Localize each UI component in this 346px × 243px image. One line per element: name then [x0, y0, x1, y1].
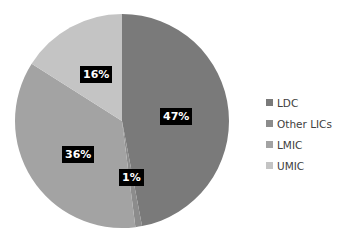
data-label-ldc: 47%: [160, 108, 192, 125]
data-label-lmic: 36%: [62, 146, 94, 163]
pie-chart: [0, 0, 250, 243]
data-label-umic: 16%: [80, 66, 112, 83]
legend-label: LDC: [277, 97, 298, 109]
legend-label: LMIC: [277, 139, 302, 151]
legend-swatch-icon: [266, 162, 273, 169]
chart-legend: LDC Other LICs LMIC UMIC: [266, 92, 332, 176]
legend-label: Other LICs: [277, 118, 332, 130]
legend-swatch-icon: [266, 99, 273, 106]
legend-item-ldc: LDC: [266, 92, 332, 113]
legend-item-lmic: LMIC: [266, 134, 332, 155]
legend-swatch-icon: [266, 120, 273, 127]
legend-item-umic: UMIC: [266, 155, 332, 176]
data-label-other-lics: 1%: [119, 169, 144, 186]
legend-label: UMIC: [277, 160, 304, 172]
legend-swatch-icon: [266, 141, 273, 148]
legend-item-other-lics: Other LICs: [266, 113, 332, 134]
